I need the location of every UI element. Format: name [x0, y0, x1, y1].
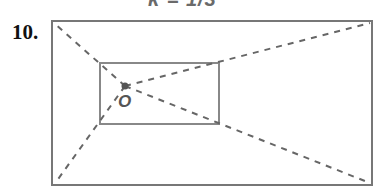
ray-bottom-right — [125, 86, 370, 183]
center-label: O — [118, 92, 131, 111]
ray-top-right — [125, 23, 370, 86]
center-point — [122, 83, 129, 90]
ray-bottom-left — [56, 86, 125, 182]
ray-top-left — [54, 23, 125, 86]
dilation-diagram: O — [0, 0, 386, 196]
